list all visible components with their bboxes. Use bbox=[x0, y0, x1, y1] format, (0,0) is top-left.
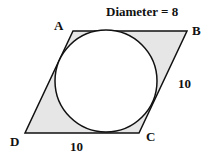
vertex-label-d: D bbox=[10, 135, 19, 148]
vertex-label-c: C bbox=[146, 130, 155, 143]
inscribed-circle bbox=[55, 30, 157, 132]
side-label-dc: 10 bbox=[70, 140, 83, 153]
diameter-label: Diameter = 8 bbox=[106, 5, 178, 18]
vertex-label-a: A bbox=[54, 19, 63, 32]
side-label-bc: 10 bbox=[178, 77, 191, 90]
vertex-label-b: B bbox=[192, 24, 201, 37]
